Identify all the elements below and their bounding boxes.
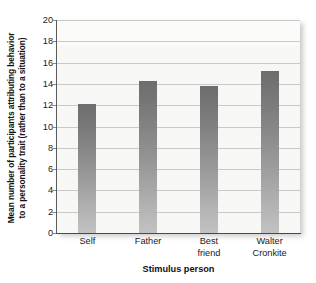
plot-background-top — [57, 20, 300, 46]
x-axis-tick-label-line: Father — [118, 236, 179, 248]
x-axis-tick-label: Bestfriend — [179, 236, 240, 259]
bar — [261, 71, 279, 233]
y-axis-tick-label: 20 — [33, 15, 53, 25]
gridline — [57, 41, 300, 42]
y-axis-tick-label: 12 — [33, 100, 53, 110]
x-axis-tick-label-line: Best — [179, 236, 240, 248]
y-axis-tick-labels: 20181614121086420 — [33, 14, 53, 240]
y-axis-tick-label: 16 — [33, 58, 53, 68]
gridline — [57, 20, 300, 21]
bar-chart-figure: Mean number of participants attributing … — [0, 0, 316, 283]
bar — [139, 81, 157, 233]
y-axis-tick-label: 14 — [33, 79, 53, 89]
plot-area — [57, 20, 300, 233]
x-axis-tick-labels: SelfFatherBestfriendWalterCronkite — [57, 236, 300, 262]
x-axis-tick-label: Father — [118, 236, 179, 248]
x-axis-title: Stimulus person — [57, 264, 300, 274]
y-axis-title-line-1: Mean number of participants attributing … — [6, 10, 17, 246]
y-axis-tick-label: 4 — [33, 185, 53, 195]
y-axis-tick-label: 2 — [33, 207, 53, 217]
x-axis-tick-label-line: Self — [57, 236, 118, 248]
gridline — [57, 63, 300, 64]
y-axis-tick-label: 18 — [33, 36, 53, 46]
bar — [200, 86, 218, 233]
x-axis-tick-label: WalterCronkite — [239, 236, 300, 259]
x-axis-tick-label: Self — [57, 236, 118, 248]
y-axis-tick-label: 8 — [33, 143, 53, 153]
y-axis-tick-label: 0 — [33, 228, 53, 238]
x-axis-line — [56, 233, 301, 234]
y-axis-tick-label: 10 — [33, 122, 53, 132]
y-axis-title-line-2: to a personality trait (rather than to a… — [17, 10, 28, 246]
x-axis-tick-label-line: friend — [179, 248, 240, 260]
x-axis-tick-label-line: Walter — [239, 236, 300, 248]
y-axis-tick-label: 6 — [33, 164, 53, 174]
y-axis-line — [56, 20, 57, 234]
x-axis-tick-label-line: Cronkite — [239, 248, 300, 260]
bar — [78, 104, 96, 233]
